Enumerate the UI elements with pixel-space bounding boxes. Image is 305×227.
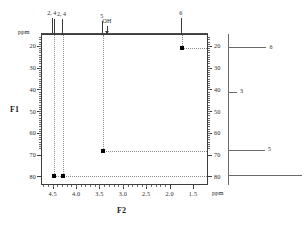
f1-minor-tick-left — [39, 85, 41, 86]
f1-minor-tick-left — [39, 92, 41, 93]
oh-arrow-icon — [107, 26, 108, 33]
f1-minor-tick-left — [39, 135, 41, 136]
f1-minor-tick-left — [39, 39, 41, 40]
f1-minor-tick-left — [39, 107, 41, 108]
f2-minor-tick — [109, 185, 110, 187]
f1-tick-right — [208, 176, 212, 177]
f1-minor-tick-right — [208, 72, 210, 73]
f2-minor-tick — [48, 185, 49, 187]
f1-minor-tick-right — [208, 79, 210, 80]
f1-minor-tick-left — [39, 57, 41, 58]
f1-minor-tick-right — [208, 111, 210, 112]
f1-minor-tick-left — [39, 98, 41, 99]
f1-tick-label-right: 60 — [214, 129, 221, 136]
f1-projection-peak — [228, 150, 265, 151]
f2-projection-peak — [52, 18, 53, 34]
f1-minor-tick-left — [39, 44, 41, 45]
f1-tick-label-right: 20 — [214, 42, 221, 49]
f1-minor-tick-right — [208, 42, 210, 43]
f1-minor-tick-right — [208, 50, 210, 51]
f1-minor-tick-right — [208, 139, 210, 140]
f2-projection-peak — [62, 19, 63, 34]
f2-minor-tick — [71, 185, 72, 187]
f2-ppm-caption: ppm — [212, 189, 223, 196]
f2-projection-peak-label: 2, 4 — [54, 11, 70, 17]
f1-minor-tick-left — [39, 50, 41, 51]
f1-minor-tick-left — [39, 118, 41, 119]
spectrum-plot-area — [41, 34, 208, 185]
f1-minor-tick-right — [208, 100, 210, 101]
f1-minor-tick-left — [39, 52, 41, 53]
f1-minor-tick-right — [208, 122, 210, 123]
f2-tick-label: 3.0 — [116, 190, 130, 197]
f2-minor-tick — [160, 185, 161, 187]
f1-minor-tick-right — [208, 135, 210, 136]
f1-minor-tick-right — [208, 131, 210, 132]
f2-tick-label: 4.5 — [46, 190, 60, 197]
f2-projection-peak — [54, 19, 55, 34]
f2-minor-tick — [104, 185, 105, 187]
nmr-figure: F1 F2 ppm ppm 4.54.03.53.02.52.01.520203… — [0, 0, 305, 227]
f2-minor-tick — [137, 185, 138, 187]
f1-minor-tick-left — [39, 120, 41, 121]
f1-tick-label-right: 50 — [214, 108, 221, 115]
f2-projection-trace — [41, 18, 208, 34]
f1-minor-tick-left — [39, 59, 41, 60]
f1-minor-tick-right — [208, 68, 210, 69]
f1-minor-tick-right — [208, 48, 210, 49]
f1-minor-tick-right — [208, 52, 210, 53]
f1-tick-label-left: 60 — [22, 129, 36, 136]
f1-minor-tick-right — [208, 137, 210, 138]
f1-minor-tick-left — [39, 137, 41, 138]
oh-peak-label: OH — [100, 18, 114, 24]
f1-minor-tick-left — [39, 70, 41, 71]
f1-ppm-caption: ppm — [18, 28, 29, 35]
f2-tick — [193, 185, 194, 189]
f1-minor-tick-right — [208, 146, 210, 147]
f1-minor-tick-right — [208, 55, 210, 56]
f1-minor-tick-left — [39, 46, 41, 47]
f1-minor-tick-left — [39, 115, 41, 116]
f1-minor-tick-left — [39, 133, 41, 134]
f2-minor-tick — [146, 185, 147, 187]
f2-minor-tick — [114, 185, 115, 187]
f2-minor-tick — [57, 185, 58, 187]
f1-minor-tick-left — [39, 142, 41, 143]
f1-minor-tick-left — [39, 61, 41, 62]
f1-tick-label-right: 80 — [214, 173, 221, 180]
f1-minor-tick-left — [39, 37, 41, 38]
f2-minor-tick — [156, 185, 157, 187]
f1-minor-tick-right — [208, 120, 210, 121]
f1-minor-tick-left — [39, 81, 41, 82]
f1-minor-tick-left — [39, 68, 41, 69]
f1-minor-tick-left — [39, 55, 41, 56]
f1-minor-tick-right — [208, 70, 210, 71]
f1-projection-peak — [228, 47, 266, 48]
f2-projection-peak-label: 6 — [177, 10, 185, 16]
f2-minor-tick — [123, 185, 124, 187]
f2-minor-tick — [85, 185, 86, 187]
f1-minor-tick-right — [208, 85, 210, 86]
f1-minor-tick-left — [39, 129, 41, 130]
f2-minor-tick — [142, 185, 143, 187]
f1-tick-label-left: 30 — [22, 64, 36, 71]
f2-tick-label: 4.0 — [69, 190, 83, 197]
f1-tick-right — [208, 155, 212, 156]
f1-minor-tick-right — [208, 102, 210, 103]
f1-minor-tick-left — [39, 87, 41, 88]
f2-minor-tick — [76, 185, 77, 187]
f1-minor-tick-left — [39, 76, 41, 77]
f1-projection-trace — [228, 34, 302, 185]
f1-minor-tick-right — [208, 129, 210, 130]
f1-projection-peak-label: 6 — [269, 44, 272, 50]
f1-minor-tick-right — [208, 98, 210, 99]
f1-minor-tick-right — [208, 59, 210, 60]
cross-peak-guide-horizontal — [103, 151, 207, 152]
f1-minor-tick-left — [39, 42, 41, 43]
f1-minor-tick-right — [208, 115, 210, 116]
f1-minor-tick-right — [208, 89, 210, 90]
f1-tick-label-left: 40 — [22, 86, 36, 93]
cross-peak-guide-vertical — [54, 35, 55, 176]
f2-minor-tick — [99, 185, 100, 187]
f1-projection-peak-label: 5 — [268, 146, 271, 152]
